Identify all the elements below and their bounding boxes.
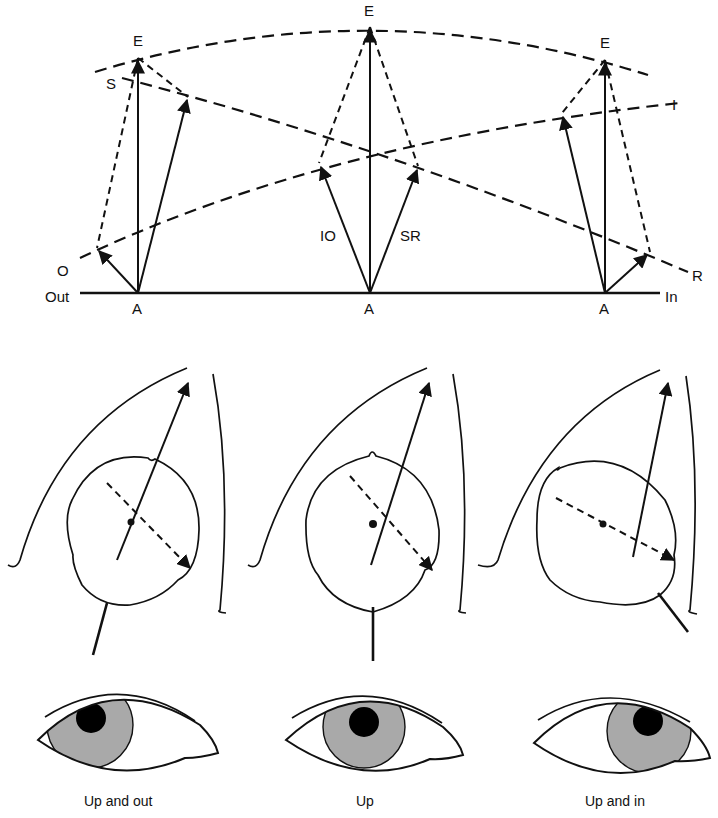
sr-vector [605, 255, 647, 293]
label-a-out: A [132, 300, 142, 317]
label-o: O [57, 262, 69, 279]
sr-vector [138, 100, 187, 293]
label-a-primary: A [364, 300, 374, 317]
label-io: IO [320, 227, 336, 244]
io-vector [563, 117, 605, 293]
eye-front-up-and-in: Up and in [534, 689, 710, 809]
optic-nerve [658, 593, 688, 632]
orbit-lateral-wall [686, 376, 697, 614]
visual-axis-arrow [117, 383, 188, 560]
orbital-axis-dashed [556, 498, 674, 560]
vector-set-primary [319, 27, 418, 293]
caption-up: Up [356, 793, 374, 809]
vector-set-out [97, 58, 188, 293]
globe-outline [537, 461, 676, 605]
label-a-in: A [599, 300, 609, 317]
globe-outline [306, 452, 439, 612]
orbital-axis-dashed [350, 476, 432, 570]
label-in: In [665, 288, 678, 305]
visual-axis-arrow [633, 383, 668, 557]
label-e-in: E [600, 34, 610, 51]
orbit-medial-wall [478, 370, 660, 567]
label-sr: SR [400, 227, 421, 244]
figure-canvas: E E E S O Out A A A IO SR I R In [0, 0, 718, 818]
globe-outline [67, 457, 199, 605]
globe-center-dot [600, 521, 607, 528]
eye-front-up: Up [286, 686, 463, 809]
caption-up-and-in: Up and in [585, 793, 645, 809]
parallelogram-edge [370, 27, 418, 166]
globe-center-dot [128, 519, 135, 526]
label-i: I [672, 96, 676, 113]
eye-front-up-and-out: Up and out [38, 682, 218, 809]
parallelogram-edge [605, 60, 650, 252]
orbit-panel-up-and-out [8, 368, 226, 655]
label-out: Out [45, 288, 70, 305]
orbit-panel-up [248, 368, 466, 661]
globe-center-dot [369, 520, 377, 528]
parallelogram-edge [138, 58, 188, 97]
orbit-panel-up-and-in [478, 370, 697, 632]
parallelogram-edge [562, 60, 605, 113]
io-vector [99, 251, 138, 293]
visual-axis-arrow [371, 383, 429, 565]
pupil [76, 703, 106, 733]
optic-nerve [93, 603, 107, 655]
orbit-lateral-wall [213, 374, 226, 613]
inferior-oblique-line [80, 103, 680, 258]
orbit-lateral-wall [453, 374, 466, 613]
parallelogram-edge [97, 58, 138, 248]
label-r: R [692, 267, 703, 284]
vector-diagram: E E E S O Out A A A IO SR I R In [45, 2, 703, 317]
label-e-out: E [133, 32, 143, 49]
orbit-medial-wall [248, 368, 427, 567]
caption-up-and-out: Up and out [84, 793, 153, 809]
label-e-primary: E [364, 2, 374, 19]
vector-set-in [562, 60, 650, 293]
label-s: S [106, 75, 116, 92]
pupil [349, 707, 379, 737]
elevation-arc [95, 31, 648, 75]
